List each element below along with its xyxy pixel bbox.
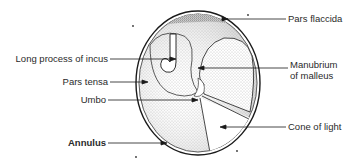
label-annulus: Annulus <box>68 137 106 148</box>
label-pars-tensa: Pars tensa <box>63 76 108 87</box>
label-cone-of-light: Cone of light <box>288 121 341 132</box>
label-umbo: Umbo <box>81 94 106 105</box>
label-manubrium-line1: Manubrium <box>290 59 338 70</box>
label-pars-flaccida: Pars flaccida <box>288 13 342 24</box>
label-manubrium-line2: of malleus <box>290 70 333 81</box>
label-long-process-of-incus: Long process of incus <box>16 53 108 64</box>
tympanic-membrane-diagram <box>0 0 356 162</box>
